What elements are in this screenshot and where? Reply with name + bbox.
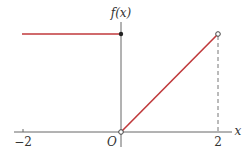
x-tick-label-2: 2: [214, 135, 222, 149]
x-tick-label-neg2: −2: [14, 135, 32, 149]
origin-label: O: [107, 135, 117, 149]
y-axis-label: f(x): [110, 6, 132, 20]
closed-endpoint-dot: [119, 32, 123, 36]
open-endpoint-top: [216, 32, 221, 37]
x-axis-label: x: [235, 124, 242, 138]
segment-linear: [121, 34, 218, 132]
open-endpoint-origin: [119, 130, 124, 135]
piecewise-function-plot: f(x) x O −2 2: [0, 0, 247, 156]
